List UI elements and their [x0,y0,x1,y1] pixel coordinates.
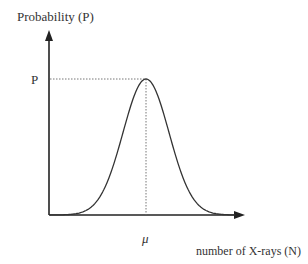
y-axis-arrow-icon [45,30,53,41]
peak-probability-label: P [31,72,38,87]
distribution-diagram: Probability (P) P μ number of X-rays (N) [0,0,308,264]
y-axis-label: Probability (P) [17,9,94,24]
x-axis-label: number of X-rays (N) [196,244,301,258]
x-axis-arrow-icon [234,211,245,219]
gaussian-curve [50,79,235,215]
mean-label: μ [141,231,149,246]
